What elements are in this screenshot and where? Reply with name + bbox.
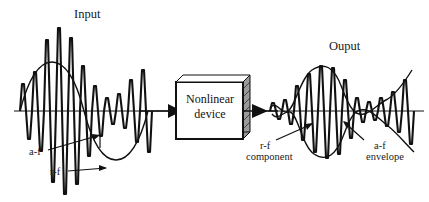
- output-label: Ouput: [329, 40, 360, 53]
- device-box-text-line1: Nonlinear: [178, 92, 242, 107]
- output-af-envelope-label-line1: a-f: [374, 140, 404, 151]
- input-rf-leader-arrowhead: [99, 165, 107, 171]
- output-rf-component-label-line2: component: [246, 151, 293, 162]
- output-rf-component-label-line1: r-f: [260, 140, 293, 151]
- input-rf-label: r-f: [50, 166, 60, 177]
- device-box-top-bevel: [176, 75, 250, 82]
- input-af-label: a-f: [29, 146, 41, 157]
- output-af-envelope-label-line2: envelope: [366, 151, 404, 162]
- output-arrow-head: [252, 104, 268, 118]
- input-label: Input: [74, 8, 100, 21]
- output-af-envelope-label: a-f envelope: [366, 140, 404, 162]
- output-rf-component-label: r-f component: [246, 140, 293, 162]
- device-box-text: Nonlinear device: [178, 92, 242, 122]
- diagram-canvas: Input Ouput a-f r-f r-f component a-f en…: [0, 0, 429, 202]
- device-box-text-line2: device: [178, 107, 242, 122]
